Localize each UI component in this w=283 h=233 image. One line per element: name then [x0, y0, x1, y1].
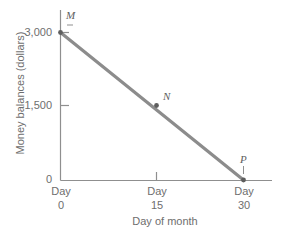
annotation-label-n: N	[163, 90, 170, 102]
x-axis-title: Day of month	[110, 215, 220, 227]
annotation-label-m: M	[66, 9, 75, 21]
data-point-p	[241, 178, 246, 183]
x-tick-label-day-30-line1: Day	[222, 185, 266, 197]
x-tick-label-day-0-line1: Day	[39, 185, 83, 197]
x-tick-label-day-15-line2: 15	[135, 199, 179, 211]
x-tick-label-day-0-line2: 0	[39, 199, 83, 211]
x-tick-label-day-30-line2: 30	[222, 199, 266, 211]
data-point-n	[154, 103, 159, 108]
y-tick-label-0: 0	[8, 173, 52, 185]
money-balances-chart: Money balances (dollars) 3,000 1,500 0 D…	[0, 0, 283, 233]
x-tick-label-day-15-line1: Day	[135, 185, 179, 197]
data-line-money-balances	[61, 33, 244, 181]
y-tick-label-3000: 3,000	[8, 26, 52, 38]
data-point-m	[58, 30, 63, 35]
annotation-label-p: P	[240, 153, 247, 165]
y-tick-label-1500: 1,500	[8, 99, 52, 111]
